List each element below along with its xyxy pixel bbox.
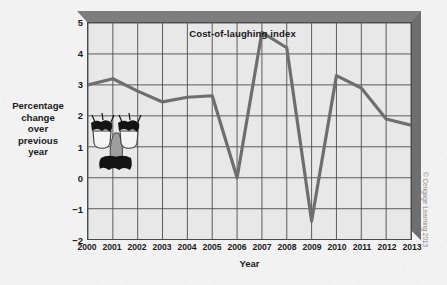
y-tick-label: 0 xyxy=(78,172,83,183)
x-tick-label: 2004 xyxy=(177,242,196,252)
x-tick-label: 2000 xyxy=(77,242,96,252)
x-tick-label: 2008 xyxy=(277,242,296,252)
x-tick-label: 2002 xyxy=(127,242,146,252)
x-tick-label: 2012 xyxy=(377,242,396,252)
x-tick-label: 2013 xyxy=(402,242,421,252)
x-tick-label: 2011 xyxy=(353,242,372,252)
x-tick-label: 2006 xyxy=(227,242,246,252)
y-tick-label: 2 xyxy=(78,110,83,121)
y-tick-label: 1 xyxy=(78,141,83,152)
y-tick-label: −1 xyxy=(72,203,83,214)
chart-title: Cost-of-laughing index xyxy=(150,28,335,39)
x-tick-label: 2010 xyxy=(327,242,346,252)
x-axis-label: Year xyxy=(87,258,412,269)
x-tick-label: 2005 xyxy=(202,242,221,252)
y-axis-label-line: previous xyxy=(2,135,74,147)
y-axis-label-line: change xyxy=(2,112,74,124)
y-tick-label: 3 xyxy=(78,79,83,90)
x-axis-ticks: 2000200120022003200420052006200720082009… xyxy=(87,242,412,256)
groucho-glasses-icon xyxy=(86,107,148,179)
y-axis-label: Percentagechangeoverpreviousyear xyxy=(2,100,74,158)
y-axis-label-line: Percentage xyxy=(2,100,74,112)
y-axis-label-line: year xyxy=(2,146,74,158)
y-tick-label: 5 xyxy=(78,17,83,28)
copyright-notice: © Cengage Learning 2013 xyxy=(422,172,429,247)
y-tick-label: 4 xyxy=(78,48,83,59)
x-tick-label: 2007 xyxy=(252,242,271,252)
x-tick-label: 2009 xyxy=(302,242,321,252)
x-tick-label: 2003 xyxy=(152,242,171,252)
y-axis-label-line: over xyxy=(2,123,74,135)
x-tick-label: 2001 xyxy=(102,242,121,252)
